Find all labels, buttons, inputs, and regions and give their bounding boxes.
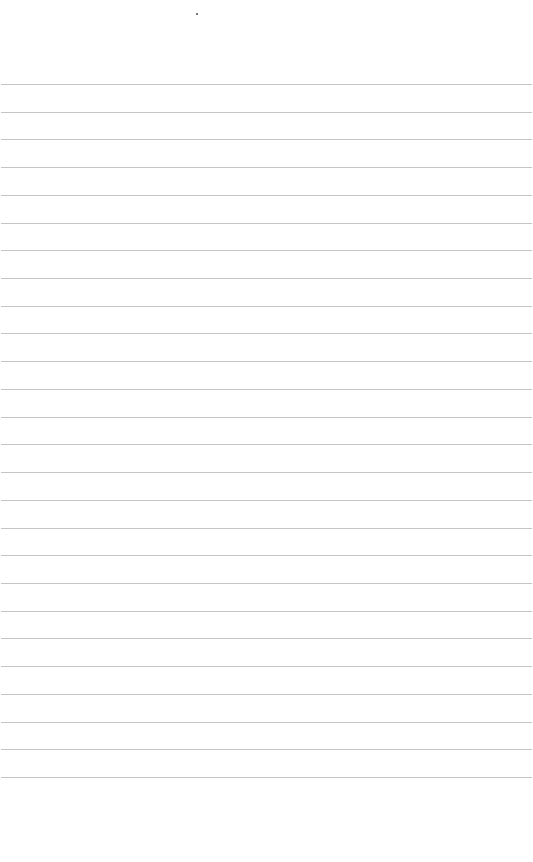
ruled-line bbox=[1, 333, 532, 334]
ruled-line bbox=[1, 583, 532, 584]
ruled-line bbox=[1, 112, 532, 113]
ruled-line bbox=[1, 500, 532, 501]
lined-paper-page bbox=[0, 0, 533, 862]
ruled-line bbox=[1, 749, 532, 750]
ruled-line bbox=[1, 167, 532, 168]
ruled-line bbox=[1, 306, 532, 307]
ruled-line bbox=[1, 250, 532, 251]
ruled-line bbox=[1, 694, 532, 695]
ruled-line bbox=[1, 444, 532, 445]
ruled-line bbox=[1, 555, 532, 556]
ruled-line bbox=[1, 472, 532, 473]
ruled-line bbox=[1, 528, 532, 529]
ruled-line bbox=[1, 278, 532, 279]
ruled-line bbox=[1, 361, 532, 362]
ruled-line bbox=[1, 722, 532, 723]
page-mark bbox=[196, 13, 198, 15]
ruled-line bbox=[1, 638, 532, 639]
ruled-line bbox=[1, 417, 532, 418]
ruled-line bbox=[1, 84, 532, 85]
ruled-line bbox=[1, 777, 532, 778]
ruled-line bbox=[1, 611, 532, 612]
ruled-line bbox=[1, 139, 532, 140]
ruled-line bbox=[1, 389, 532, 390]
ruled-line bbox=[1, 223, 532, 224]
ruled-line bbox=[1, 666, 532, 667]
ruled-line bbox=[1, 195, 532, 196]
